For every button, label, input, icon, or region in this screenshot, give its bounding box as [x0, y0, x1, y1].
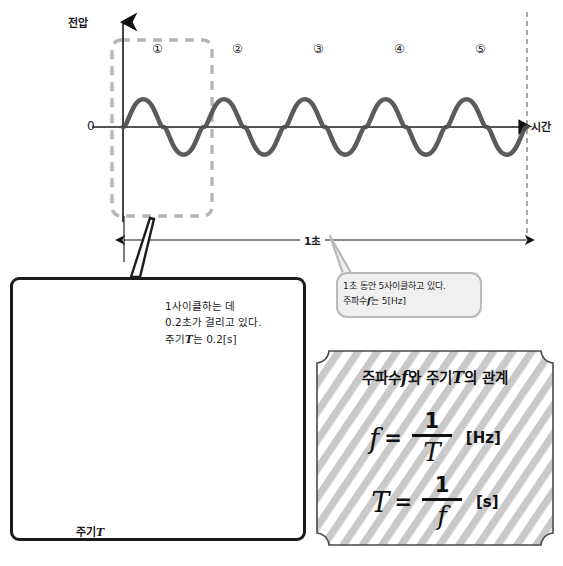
eq1-numerator: 1	[424, 410, 439, 432]
time-axis-label: 시간	[531, 118, 550, 134]
eq1-fraction: 1 T	[412, 410, 452, 466]
bubble-line2-suffix: 는 5[Hz]	[371, 296, 406, 306]
cycle-marker-2: ②	[232, 42, 243, 56]
eq2-unit: [s]	[476, 493, 499, 511]
bubble-text: 1초 동안 5사이클하고 있다. 주파수f는 5[Hz]	[343, 279, 483, 309]
inset-note-line-2: 0.2초가 걸리고 있다.	[165, 314, 305, 330]
formula-title-part2: 와 주기	[408, 370, 452, 386]
eq1-operator: =	[384, 426, 402, 450]
eq2-numerator: 1	[435, 474, 450, 496]
bubble-line-1: 1초 동안 5사이클하고 있다.	[343, 279, 483, 294]
inset-note-symbol-T: T	[185, 333, 193, 345]
eq1-denominator: T	[423, 439, 440, 466]
formula-title-symbol-T: T	[452, 368, 464, 387]
formula-title: 주파수f와 주기T의 관계	[316, 366, 554, 387]
cycle-marker-3: ③	[313, 42, 324, 56]
formula-box: 주파수f와 주기T의 관계 f = 1 T [Hz] T = 1 f [s]	[316, 350, 554, 546]
eq2-denominator: f	[437, 503, 447, 530]
formula-title-symbol-f: f	[401, 368, 408, 387]
eq1-lhs: f	[369, 423, 379, 454]
formula-title-part1: 주파수	[362, 370, 401, 386]
inset-note-line-3: 주기T는 0.2[s]	[165, 331, 305, 347]
voltage-axis-label: 전압	[68, 14, 87, 30]
eq2-lhs: T	[371, 487, 389, 518]
equation-period: T = 1 f [s]	[316, 474, 554, 530]
period-label-prefix: 주기	[76, 526, 96, 539]
eq2-operator: =	[394, 490, 412, 514]
zero-label: 0	[87, 119, 95, 133]
eq2-fraction: 1 f	[422, 474, 462, 530]
period-label-symbol-T: T	[96, 526, 104, 539]
bubble-line-2: 주파수f는 5[Hz]	[343, 294, 483, 309]
inset-note-line-1: 1사이클하는 데	[165, 298, 305, 314]
equation-frequency: f = 1 T [Hz]	[316, 410, 554, 466]
cycle-marker-5: ⑤	[475, 42, 486, 56]
bubble-line2-prefix: 주파수	[343, 296, 367, 306]
inset-note-suffix: 는 0.2[s]	[193, 333, 237, 345]
frequency-period-diagram: 전압 시간 0 ① ② ③ ④ ⑤ 1초 1사이클하는 데 0.2초가 걸리고 …	[0, 0, 563, 566]
inset-note: 1사이클하는 데 0.2초가 걸리고 있다. 주기T는 0.2[s]	[165, 298, 305, 347]
formula-title-part3: 의 관계	[464, 370, 508, 386]
one-second-label: 1초	[300, 233, 325, 248]
inset-note-prefix: 주기	[165, 333, 185, 345]
inset-period-label: 주기T	[76, 523, 104, 539]
cycle-marker-1: ①	[152, 42, 163, 56]
inset-pointer-wedge	[131, 218, 154, 277]
cycle-marker-4: ④	[394, 42, 405, 56]
eq1-unit: [Hz]	[466, 429, 501, 447]
